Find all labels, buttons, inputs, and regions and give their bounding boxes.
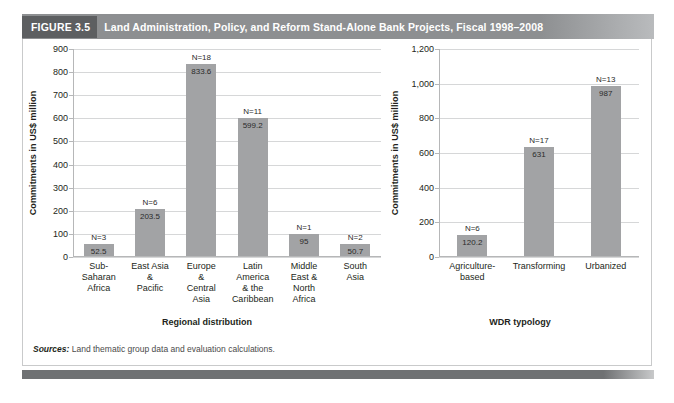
x-axis-title-left: Regional distribution [27, 317, 387, 327]
bar[interactable]: 631N=17 [524, 147, 554, 256]
bar-value-label: 599.2 [243, 121, 263, 130]
bar-value-label: 50.7 [348, 247, 364, 256]
bar-value-label: 833.6 [191, 67, 211, 76]
chart-regional-distribution: Commitments in US$ million 0100200300400… [27, 45, 387, 339]
bar-value-label: 631 [532, 150, 545, 159]
figure-container: FIGURE 3.5 Land Administration, Policy, … [22, 14, 654, 391]
x-axis-label: East Asia&Pacific [124, 261, 175, 313]
y-axis-title-right-text: Commitments in US$ million [390, 90, 400, 215]
bar-group: 52.5N=3 [73, 49, 124, 256]
x-axis-label: Urbanized [572, 261, 639, 313]
bar-group: 95N=1 [278, 49, 329, 256]
bar-count-label: N=17 [529, 136, 548, 145]
y-tick-label: 100 [53, 229, 68, 239]
x-axis-label: Europe&CentralAsia [176, 261, 227, 313]
sources-text: Land thematic group data and evaluation … [69, 344, 275, 354]
x-axis-label: Sub-SaharanAfrica [73, 261, 124, 313]
bar-value-label: 120.2 [462, 238, 482, 247]
bar-count-label: N=6 [465, 224, 480, 233]
x-axis-label: LatinAmerica& theCaribbean [227, 261, 278, 313]
x-axis-labels-left: Sub-SaharanAfricaEast Asia&PacificEurope… [73, 261, 381, 313]
y-tick-label: 400 [419, 183, 434, 193]
y-tick-label: 200 [419, 217, 434, 227]
bar-group: 50.7N=2 [330, 49, 381, 256]
x-axis-label: Transforming [506, 261, 573, 313]
bar-group: 203.5N=6 [124, 49, 175, 256]
x-axis-line-right [439, 256, 639, 257]
bar[interactable]: 203.5N=6 [135, 209, 165, 256]
bar-group: 631N=17 [506, 49, 573, 256]
bar-group: 833.6N=18 [176, 49, 227, 256]
figure-number: FIGURE 3.5 [22, 16, 97, 38]
bar-series-right: 120.2N=6631N=17987N=13 [439, 49, 639, 256]
bar-count-label: N=1 [297, 223, 312, 232]
bar-value-label: 203.5 [140, 212, 160, 221]
y-tick-label: 600 [53, 113, 68, 123]
y-tick-label: 200 [53, 206, 68, 216]
bar[interactable]: 95N=1 [289, 234, 319, 256]
x-axis-label: MiddleEast &NorthAfrica [278, 261, 329, 313]
charts-area: Commitments in US$ million 0100200300400… [23, 39, 653, 339]
bar-value-label: 987 [599, 89, 612, 98]
x-axis-label: Agriculture-based [439, 261, 506, 313]
y-axis-title-left-text: Commitments in US$ million [28, 90, 38, 215]
bar-series-left: 52.5N=3203.5N=6833.6N=18599.2N=1195N=150… [73, 49, 381, 256]
y-tick-label: 300 [53, 183, 68, 193]
bar-count-label: N=3 [91, 233, 106, 242]
gridline [73, 257, 381, 258]
figure-body: Commitments in US$ million 0100200300400… [22, 39, 652, 366]
y-tick-label: 1,200 [411, 44, 434, 54]
y-tick-label: 900 [53, 44, 68, 54]
y-axis-title-left: Commitments in US$ million [25, 45, 41, 260]
x-axis-title-right: WDR typology [389, 317, 651, 327]
y-tick-label: 0 [63, 252, 68, 262]
bar[interactable]: 52.5N=3 [84, 244, 114, 256]
y-tick-mark [69, 257, 73, 258]
y-axis-title-right: Commitments in US$ million [387, 45, 403, 260]
figure-title: Land Administration, Policy, and Reform … [97, 21, 543, 33]
bar-count-label: N=2 [348, 233, 363, 242]
bar[interactable]: 599.2N=11 [238, 118, 268, 256]
bar[interactable]: 120.2N=6 [457, 235, 487, 256]
bar[interactable]: 987N=13 [591, 86, 621, 256]
y-tick-label: 400 [53, 160, 68, 170]
sources-note: Sources: Land thematic group data and ev… [33, 344, 275, 354]
x-axis-label: SouthAsia [330, 261, 381, 313]
y-tick-label: 700 [53, 90, 68, 100]
figure-header: FIGURE 3.5 Land Administration, Policy, … [22, 14, 654, 39]
footer-bar [22, 370, 654, 379]
y-tick-label: 0 [429, 252, 434, 262]
bar-count-label: N=13 [596, 75, 615, 84]
bar-group: 599.2N=11 [227, 49, 278, 256]
bar[interactable]: 833.6N=18 [186, 64, 216, 256]
bar-value-label: 52.5 [91, 247, 107, 256]
bar-count-label: N=6 [143, 198, 158, 207]
plot-area-left: 0100200300400500600700800900 52.5N=3203.… [73, 49, 381, 257]
y-tick-label: 500 [53, 136, 68, 146]
y-tick-label: 800 [53, 67, 68, 77]
bar-group: 987N=13 [572, 49, 639, 256]
y-tick-label: 800 [419, 113, 434, 123]
bar-count-label: N=18 [192, 53, 211, 62]
bar[interactable]: 50.7N=2 [340, 244, 370, 256]
y-tick-mark [435, 257, 439, 258]
sources-label: Sources: [33, 344, 69, 354]
y-tick-label: 600 [419, 148, 434, 158]
bar-group: 120.2N=6 [439, 49, 506, 256]
x-axis-line-left [73, 256, 381, 257]
plot-area-right: 02004006008001,0001,200 120.2N=6631N=179… [439, 49, 639, 257]
chart-wdr-typology: Commitments in US$ million 0200400600800… [389, 45, 651, 339]
gridline [439, 257, 639, 258]
bar-count-label: N=11 [243, 107, 262, 116]
bar-value-label: 95 [300, 237, 309, 246]
y-tick-label: 1,000 [411, 79, 434, 89]
x-axis-labels-right: Agriculture-basedTransformingUrbanized [439, 261, 639, 313]
